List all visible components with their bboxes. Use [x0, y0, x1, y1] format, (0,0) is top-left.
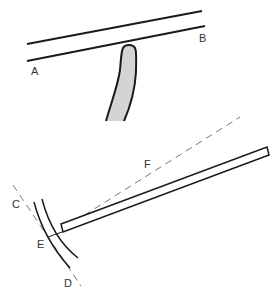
diagram-canvas: A B F C E D [0, 0, 273, 296]
arc-inner [34, 202, 70, 268]
surface-line-top [27, 11, 202, 44]
label-c: C [12, 198, 20, 210]
label-d: D [64, 277, 72, 289]
label-a: A [31, 65, 39, 77]
rod [61, 147, 269, 232]
label-b: B [199, 32, 206, 44]
label-e: E [37, 238, 44, 250]
label-f: F [144, 158, 151, 170]
surface-line-bottom [27, 26, 205, 61]
